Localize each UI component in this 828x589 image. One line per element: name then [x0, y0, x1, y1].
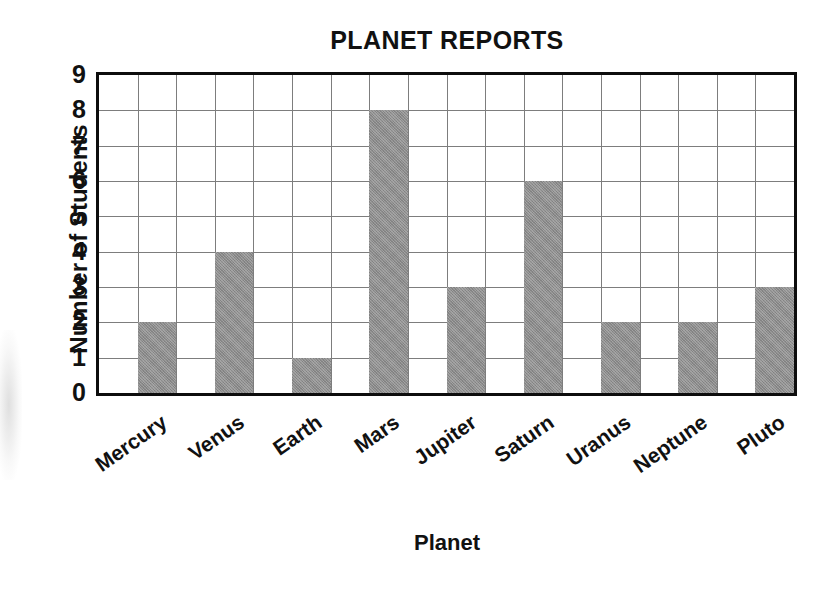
y-tick-label: 5 — [58, 203, 86, 228]
gridline-vertical — [408, 75, 409, 393]
x-tick-label: Earth — [268, 410, 326, 460]
x-axis-tick-labels: MercuryVenusEarthMarsJupiterSaturnUranus… — [96, 404, 797, 524]
y-tick-label: 2 — [58, 309, 86, 334]
gridline-vertical — [253, 75, 254, 393]
gridline-vertical — [640, 75, 641, 393]
x-tick-slot: Pluto — [775, 404, 776, 405]
x-tick-slot: Saturn — [543, 404, 544, 405]
bar-venus — [215, 252, 254, 393]
plot-area — [96, 72, 797, 396]
gridline-vertical — [292, 75, 293, 393]
y-tick-label: 9 — [58, 62, 86, 87]
x-tick-label: Mars — [349, 410, 403, 458]
x-tick-slot: Venus — [234, 404, 235, 405]
bar-saturn — [524, 181, 563, 393]
y-tick-label: 6 — [58, 168, 86, 193]
gridline-vertical — [485, 75, 486, 393]
x-tick-label: Venus — [184, 410, 248, 465]
scan-artifact — [0, 330, 22, 480]
y-tick-label: 4 — [58, 239, 86, 264]
gridline-vertical — [562, 75, 563, 393]
x-tick-slot: Mercury — [157, 404, 158, 405]
x-tick-slot: Neptune — [697, 404, 698, 405]
plot-grid-and-bars — [99, 75, 794, 393]
gridline-vertical — [331, 75, 332, 393]
x-tick-slot: Mars — [389, 404, 390, 405]
chart-title: PLANET REPORTS — [96, 26, 798, 55]
x-tick-label: Neptune — [630, 410, 713, 478]
bar-neptune — [678, 322, 717, 393]
bar-jupiter — [447, 287, 486, 393]
bar-uranus — [601, 322, 640, 393]
y-tick-label: 3 — [58, 274, 86, 299]
gridline-vertical — [176, 75, 177, 393]
y-tick-label: 7 — [58, 133, 86, 158]
x-tick-label: Uranus — [562, 410, 635, 471]
y-axis-tick-labels: 0123456789 — [52, 72, 86, 396]
x-tick-slot: Earth — [311, 404, 312, 405]
chart-screenshot: PLANET REPORTS Number of Students 012345… — [0, 0, 828, 589]
y-tick-label: 1 — [58, 345, 86, 370]
x-tick-label: Pluto — [733, 410, 790, 460]
bar-mercury — [138, 322, 177, 393]
y-tick-label: 0 — [58, 380, 86, 405]
x-axis-title: Planet — [96, 530, 798, 556]
bar-earth — [292, 358, 331, 393]
x-tick-slot: Jupiter — [466, 404, 467, 405]
x-tick-label: Jupiter — [409, 410, 480, 470]
gridline-vertical — [717, 75, 718, 393]
x-tick-slot: Uranus — [620, 404, 621, 405]
y-tick-label: 8 — [58, 97, 86, 122]
bar-mars — [369, 110, 408, 393]
x-tick-label: Saturn — [490, 410, 558, 468]
x-tick-label: Mercury — [91, 410, 172, 477]
bar-pluto — [755, 287, 794, 393]
